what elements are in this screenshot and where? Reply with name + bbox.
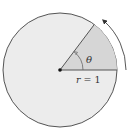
center-dot (58, 68, 62, 72)
unit-circle-diagram: θ r = 1 (0, 0, 133, 133)
angle-label: θ (86, 54, 92, 65)
radius-value: = 1 (81, 74, 101, 85)
radius-label: r = 1 (76, 74, 101, 85)
